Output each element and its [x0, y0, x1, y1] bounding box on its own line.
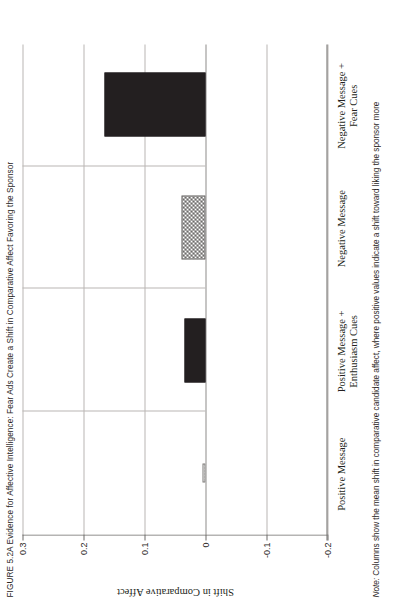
category-label-line1-1: Positive Message + — [335, 290, 347, 413]
y-tick-0.3 — [22, 534, 23, 540]
category-separator-1 — [22, 410, 205, 411]
y-tick-0.2 — [83, 534, 84, 540]
y-tick--0.1 — [266, 534, 267, 540]
y-tick-label--0.2: -0.2 — [322, 542, 332, 558]
category-label-2: Negative Message — [335, 167, 347, 290]
category-separator-2 — [22, 288, 205, 289]
gridline-0.2 — [83, 44, 84, 534]
category-label-line2-1: Enthusiasm Cues — [347, 290, 359, 413]
y-tick-0 — [205, 534, 206, 540]
y-tick-label-0: 0 — [200, 542, 210, 547]
y-axis-title: Shift in Comparative Affect — [116, 587, 233, 598]
figure-caption: FIGURE 5.2A Evidence for Affective Intel… — [5, 7, 15, 597]
figure-note-text: Columns show the mean shift in comparati… — [371, 101, 380, 577]
figure-page: FIGURE 5.2A Evidence for Affective Intel… — [0, 0, 407, 607]
bar-1 — [184, 318, 205, 382]
category-label-3: Negative Message +Fear Cues — [335, 44, 359, 167]
y-tick-label--0.1: -0.1 — [261, 542, 271, 558]
y-tick-label-0.3: 0.3 — [17, 542, 27, 555]
y-tick-label-0.1: 0.1 — [139, 542, 149, 555]
y-tick-0.1 — [144, 534, 145, 540]
x-axis-line — [326, 44, 327, 540]
category-label-line1-3: Negative Message + — [335, 44, 347, 167]
category-label-line1-2: Negative Message — [335, 167, 347, 290]
category-separator-3 — [22, 165, 205, 166]
bar-0 — [202, 463, 205, 483]
figure-note: Note: Columns show the mean shift in com… — [370, 5, 381, 597]
category-label-0: Positive Message — [335, 412, 347, 535]
category-label-1: Positive Message +Enthusiasm Cues — [335, 290, 359, 413]
bar-2 — [181, 195, 205, 259]
chart-plot-area: 0.30.20.10-0.1-0.2 Shift in Comparative … — [22, 44, 327, 535]
category-label-line2-3: Fear Cues — [347, 44, 359, 167]
figure-note-label: Note: — [371, 577, 380, 597]
bar-3 — [104, 72, 205, 136]
gridline-0.3 — [22, 44, 23, 534]
y-tick-label-0.2: 0.2 — [78, 542, 88, 555]
category-label-line1-0: Positive Message — [335, 412, 347, 535]
gridline--0.1 — [266, 44, 267, 534]
